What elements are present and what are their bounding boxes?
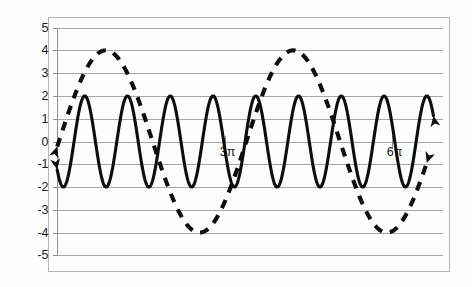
- y-axis-tick-label: -4: [37, 226, 48, 240]
- y-axis-tick-label: 4: [42, 43, 49, 57]
- data-curves-group: [49, 50, 440, 232]
- y-axis-tick-labels-group: 543210-1-2-3-4-5: [37, 21, 48, 262]
- high-frequency-solid-wave: [57, 96, 433, 187]
- y-axis-tick-label: -5: [37, 248, 48, 262]
- chart-figure: 543210-1-2-3-4-5 3π6π: [0, 0, 472, 287]
- y-axis-tick-label: -2: [37, 180, 48, 194]
- dashed-wave-end-arrowhead: [422, 151, 435, 165]
- y-axis-tick-label: 2: [42, 89, 49, 103]
- chart-canvas: 543210-1-2-3-4-5 3π6π: [0, 0, 472, 287]
- y-axis-tick-label: -1: [37, 157, 48, 171]
- dashed-wave-start-arrowhead: [49, 145, 62, 159]
- x-axis-tick-label: 3π: [220, 145, 236, 159]
- y-axis-tick-label: 3: [42, 66, 49, 80]
- low-frequency-dashed-wave: [57, 50, 427, 232]
- y-axis-tick-label: -3: [37, 203, 48, 217]
- y-axis-tick-label: 5: [42, 21, 49, 35]
- y-axis-tick-label: 1: [42, 112, 49, 126]
- y-axis-tick-label: 0: [42, 135, 49, 149]
